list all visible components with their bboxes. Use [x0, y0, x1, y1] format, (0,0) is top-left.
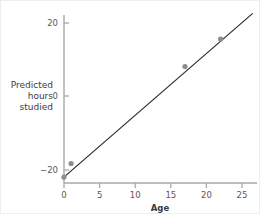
y-axis-ticks: [64, 23, 69, 170]
y-tick-label-0: 0: [53, 91, 58, 101]
scatter-line-plot: 20 0 −20 0 5 10 15 20 25 Age: [1, 1, 260, 214]
data-point: [182, 64, 187, 69]
x-axis-title: Age: [151, 203, 170, 213]
chart-figure: 20 0 −20 0 5 10 15 20 25 Age: [0, 0, 260, 214]
y-axis-title-line-2: hours: [28, 91, 54, 101]
x-tick-label-5: 5: [97, 190, 102, 200]
x-tick-label-10: 10: [130, 190, 141, 200]
y-tick-label-neg20: −20: [40, 165, 58, 175]
y-tick-label-20: 20: [47, 18, 58, 28]
x-tick-label-20: 20: [201, 190, 212, 200]
data-point: [69, 161, 74, 166]
x-tick-label-15: 15: [165, 190, 176, 200]
data-point: [61, 175, 66, 180]
y-axis-title-line-1: Predicted: [11, 80, 53, 90]
x-tick-label-0: 0: [61, 190, 66, 200]
data-point: [218, 37, 223, 42]
x-tick-label-25: 25: [237, 190, 248, 200]
x-axis-ticks: [64, 183, 242, 188]
y-axis-title-line-3: studied: [20, 102, 53, 112]
regression-line: [62, 13, 253, 179]
